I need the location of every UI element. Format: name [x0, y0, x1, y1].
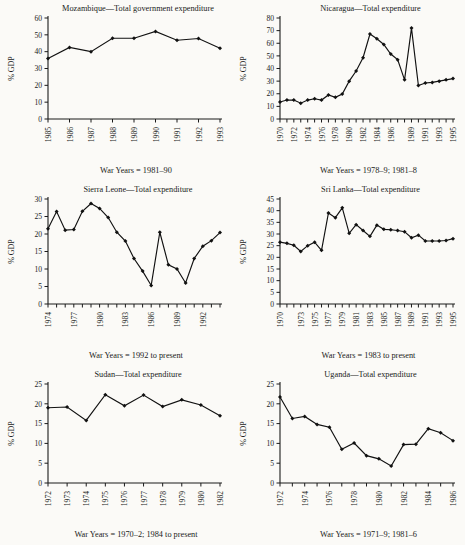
x-tick-label: 1980: [197, 491, 206, 506]
x-tick-label: 1981: [352, 312, 361, 327]
y-tick-label: 30: [34, 195, 42, 204]
data-point: [389, 228, 393, 232]
x-tick-label: 1972: [44, 491, 53, 506]
y-axis-label: % GDP: [7, 421, 16, 446]
data-point: [361, 56, 365, 60]
x-tick-label: 1983: [121, 312, 130, 327]
x-tick-label: 1995: [449, 312, 458, 327]
data-point: [444, 239, 448, 243]
y-tick-label: 15: [34, 247, 42, 256]
y-tick-label: 40: [34, 47, 42, 56]
chart-caption: War Years = 1978–9; 1981–8: [320, 166, 417, 175]
y-tick-label: 25: [34, 380, 42, 389]
y-tick-label: 5: [270, 459, 274, 468]
y-tick-label: 10: [34, 265, 42, 274]
data-point: [158, 230, 162, 234]
y-tick-label: 80: [266, 14, 274, 23]
y-tick-label: 10: [266, 276, 274, 285]
y-axis-label: % GDP: [239, 421, 248, 446]
data-point: [68, 45, 72, 49]
chart-caption: War Years = 1983 to present: [322, 351, 417, 360]
y-axis-label: % GDP: [239, 239, 248, 264]
data-line: [48, 204, 220, 286]
y-tick-label: 30: [34, 64, 42, 73]
chart-caption: War Years = 1981–90: [100, 166, 172, 175]
x-tick-label: 1979: [178, 491, 187, 506]
y-tick-label: 20: [34, 81, 42, 90]
x-tick-label: 1986: [66, 127, 75, 142]
x-tick-label: 1992: [199, 312, 208, 327]
data-point: [444, 78, 448, 82]
x-tick-label: 1978: [350, 491, 359, 506]
data-point: [292, 98, 296, 102]
y-tick-label: 10: [266, 102, 274, 111]
data-point: [46, 227, 50, 231]
x-tick-label: 1974: [44, 312, 53, 327]
y-tick-label: 10: [34, 439, 42, 448]
x-tick-label: 1980: [375, 491, 384, 506]
x-tick-label: 1983: [366, 312, 375, 327]
chart-caption: War Years = 1992 to present: [89, 351, 184, 360]
x-tick-label: 1989: [173, 312, 182, 327]
chart-caption: War Years = 1971–9; 1981–6: [320, 530, 417, 539]
y-tick-label: 0: [38, 115, 42, 124]
y-tick-label: 20: [266, 253, 274, 262]
x-tick-label: 1974: [304, 127, 313, 142]
y-axis-label: % GDP: [7, 239, 16, 264]
data-point: [430, 80, 434, 84]
y-tick-label: 25: [266, 241, 274, 250]
y-tick-label: 0: [270, 479, 274, 488]
y-tick-label: 20: [266, 400, 274, 409]
y-axis-label: % GDP: [7, 56, 16, 81]
data-point: [306, 98, 310, 102]
y-tick-label: 10: [34, 98, 42, 107]
y-tick-label: 5: [38, 282, 42, 291]
data-point: [333, 95, 337, 99]
data-point: [451, 237, 455, 241]
data-point: [396, 229, 400, 233]
x-tick-label: 1976: [325, 491, 334, 506]
data-point: [46, 56, 50, 60]
y-tick-label: 40: [266, 64, 274, 73]
x-tick-label: 1972: [290, 127, 299, 142]
data-point: [409, 26, 413, 30]
data-line: [280, 28, 453, 103]
x-tick-label: 1988: [109, 127, 118, 142]
y-tick-label: 45: [266, 195, 274, 204]
x-tick-label: 1991: [173, 127, 182, 142]
data-point: [285, 98, 289, 102]
x-tick-label: 1986: [449, 491, 458, 506]
data-point: [451, 77, 455, 81]
data-point: [132, 36, 136, 40]
data-point: [63, 228, 67, 232]
x-tick-label: 1990: [152, 127, 161, 142]
x-tick-label: 1979: [338, 312, 347, 327]
data-point: [154, 29, 158, 33]
x-tick-label: 1985: [380, 312, 389, 327]
y-tick-label: 20: [34, 230, 42, 239]
y-tick-label: 50: [34, 31, 42, 40]
y-tick-label: 0: [270, 115, 274, 124]
x-tick-label: 1989: [407, 312, 416, 327]
y-tick-label: 30: [266, 230, 274, 239]
chart-panel-uganda: Uganda—Total expenditure0510152025% GDP1…: [232, 366, 465, 545]
chart-panel-sudan: Sudan—Total expenditure0510152025% GDP19…: [0, 366, 232, 545]
data-point: [299, 101, 303, 105]
data-point: [437, 239, 441, 243]
data-point: [403, 78, 407, 82]
x-tick-label: 1974: [301, 491, 310, 506]
y-tick-label: 25: [34, 212, 42, 221]
data-point: [55, 210, 59, 214]
x-tick-label: 1976: [318, 127, 327, 142]
y-tick-label: 5: [270, 288, 274, 297]
x-tick-label: 1982: [359, 127, 368, 142]
x-tick-label: 1987: [87, 127, 96, 142]
x-tick-label: 1976: [120, 491, 129, 506]
x-tick-label: 1993: [216, 127, 225, 142]
data-point: [278, 100, 282, 104]
x-tick-label: 1986: [387, 127, 396, 142]
y-tick-label: 60: [34, 14, 42, 23]
x-tick-label: 1975: [311, 312, 320, 327]
y-tick-label: 60: [266, 39, 274, 48]
x-tick-label: 1993: [435, 312, 444, 327]
